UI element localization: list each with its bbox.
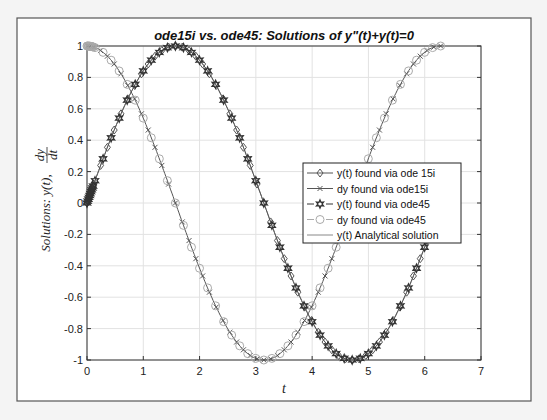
y-tick-label: -0.6 xyxy=(64,291,83,303)
legend-label: dy found via ode15i xyxy=(337,183,428,195)
x-tick-label: 4 xyxy=(309,365,315,377)
y-axis-label-dt: dt xyxy=(45,150,60,161)
chart-title: ode15i vs. ode45: Solutions of y"(t)+y(t… xyxy=(154,28,414,43)
x-tick-label: 1 xyxy=(140,365,146,377)
y-tick-label: 0.2 xyxy=(68,166,83,178)
x-tick-label: 5 xyxy=(365,365,371,377)
x-tick-label: 7 xyxy=(478,365,484,377)
y-tick-label: -0.2 xyxy=(64,228,83,240)
y-tick-label: 1 xyxy=(77,40,83,52)
y-tick-label: 0.6 xyxy=(68,103,83,115)
x-tick-label: 3 xyxy=(253,365,259,377)
y-axis-label-text: Solutions: y(t), xyxy=(38,174,53,251)
y-tick-label: 0 xyxy=(77,197,83,209)
legend-label: dy found via ode45 xyxy=(337,214,426,226)
y-tick-label: -0.8 xyxy=(64,323,83,335)
y-tick-label: 0.8 xyxy=(68,71,83,83)
y-tick-label: -1 xyxy=(73,354,83,366)
figure: 10.80.60.40.20-0.2-0.4-0.6-0.8-1 0123456… xyxy=(0,0,547,420)
x-tick-label: 2 xyxy=(197,365,203,377)
x-tick-label: 0 xyxy=(84,365,90,377)
legend-label: y(t) found via ode 15i xyxy=(337,167,435,179)
legend-label: y(t) Analytical solution xyxy=(337,229,439,241)
legend: y(t) found via ode 15idy found via ode15… xyxy=(303,163,461,243)
legend-label: y(t) found via ode45 xyxy=(337,198,430,210)
x-tick-label: 6 xyxy=(422,365,428,377)
y-tick-label: -0.4 xyxy=(64,260,83,272)
y-tick-label: 0.4 xyxy=(68,134,83,146)
